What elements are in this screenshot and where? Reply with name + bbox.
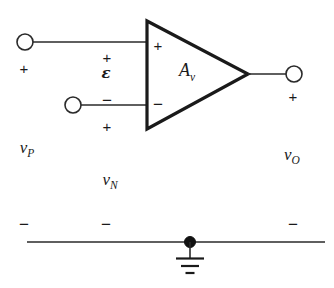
inverting-input-minus-sign: − bbox=[101, 216, 111, 233]
epsilon-symbol: ε bbox=[101, 66, 110, 81]
output-minus-sign: − bbox=[288, 216, 298, 233]
output-terminal-node bbox=[286, 66, 302, 82]
inverting-input-voltage-label: vN bbox=[102, 171, 117, 192]
amplifier-gain-label: Av bbox=[179, 61, 195, 83]
epsilon-minus-sign: − bbox=[102, 92, 112, 109]
epsilon-plus-sign: + bbox=[103, 50, 112, 65]
inverting-input-terminal-node bbox=[65, 97, 81, 113]
amplifier-noninverting-terminal-sign: + bbox=[154, 38, 163, 53]
noninverting-input-minus-sign: − bbox=[19, 216, 29, 233]
output-plus-sign: + bbox=[289, 89, 298, 104]
noninverting-input-voltage-label: vP bbox=[20, 139, 35, 160]
amplifier-inverting-terminal-sign: − bbox=[153, 96, 163, 113]
output-voltage-label: vO bbox=[284, 146, 300, 167]
noninverting-input-terminal-node bbox=[17, 34, 33, 50]
earth-ground-icon bbox=[176, 242, 204, 273]
inverting-input-plus-sign: + bbox=[103, 119, 112, 134]
noninverting-input-plus-sign: + bbox=[20, 61, 29, 76]
figure-canvas: + vP − + ε − + vN − + − Av + vO − bbox=[0, 0, 334, 288]
